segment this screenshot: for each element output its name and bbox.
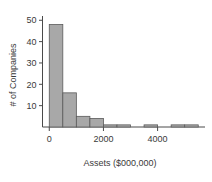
- histogram-bar: [103, 125, 117, 127]
- y-axis-title: # of Companies: [8, 43, 18, 107]
- histogram-bar: [144, 125, 158, 127]
- x-tick-label: 4000: [148, 134, 168, 144]
- y-tick-label: 10: [26, 101, 36, 111]
- x-tick-group: 020004000: [47, 127, 168, 144]
- chart-canvas: # of Companies 1020304050 020004000 Asse…: [0, 0, 212, 182]
- histogram-chart: # of Companies 1020304050 020004000 Asse…: [0, 0, 212, 182]
- histogram-bar: [117, 125, 131, 127]
- y-tick-label: 30: [26, 58, 36, 68]
- histogram-bar: [171, 125, 185, 127]
- histogram-bar: [49, 25, 63, 127]
- x-tick-label: 2000: [93, 134, 113, 144]
- x-tick-label: 0: [47, 134, 52, 144]
- histogram-bar: [185, 125, 199, 127]
- histogram-bar: [76, 116, 90, 127]
- histogram-bar: [63, 93, 77, 127]
- y-tick-group: 1020304050: [26, 15, 42, 110]
- histogram-bar: [90, 118, 104, 127]
- y-tick-label: 50: [26, 15, 36, 25]
- x-axis-title: Assets ($000,000): [83, 158, 156, 168]
- y-tick-label: 20: [26, 80, 36, 90]
- y-tick-label: 40: [26, 37, 36, 47]
- bars-group: [49, 25, 198, 127]
